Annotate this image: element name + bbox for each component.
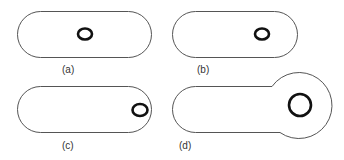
- panel-d: [173, 73, 332, 139]
- panel-b: [173, 12, 298, 58]
- label-a: (a): [62, 64, 74, 75]
- diagram-canvas: [0, 0, 344, 160]
- label-d: (d): [179, 140, 191, 151]
- ring-c: [133, 104, 148, 116]
- panel-a: [18, 12, 152, 58]
- ring-a: [78, 29, 92, 40]
- ring-b: [255, 29, 269, 40]
- ring-d: [289, 94, 311, 116]
- panel-c: [18, 87, 152, 133]
- label-c: (c): [62, 140, 74, 151]
- stadium-outline-b: [173, 12, 298, 58]
- label-b: (b): [197, 64, 209, 75]
- bulb-outline-d: [173, 73, 332, 139]
- stadium-outline-a: [18, 12, 152, 58]
